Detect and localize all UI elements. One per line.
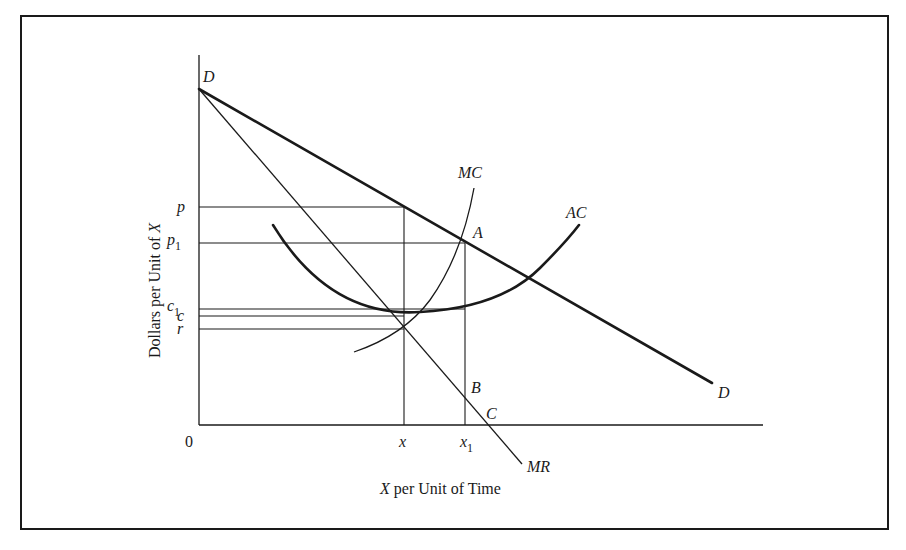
average-cost-curve [273,225,579,312]
y-axis-title-var: X [146,222,163,234]
demand-curve [199,89,712,383]
point-label-B: B [471,379,481,396]
y-level-label-p1: p1 [166,231,181,253]
y-axis-title: Dollars per Unit of X [146,222,164,358]
x-level-label-x1: x1 [459,433,473,455]
y-level-label-r: r [177,320,184,337]
y-axis-title-rest: Dollars per Unit of [146,233,164,358]
y-level-label-p: p [176,198,185,216]
x-level-label-x: x [398,433,406,450]
point-label-C: C [486,405,497,422]
marginal-revenue-curve [199,89,522,464]
curve-label-d-4: D [202,68,215,85]
origin-label: 0 [185,433,193,450]
curve-label-mr-2: MR [526,458,550,475]
curve-label-ac-1: AC [565,204,587,221]
curve-label-mc-0: MC [457,164,482,181]
guide-lines [199,207,465,425]
point-label-A: A [472,224,483,241]
x-axis-title: X per Unit of Time [379,480,501,498]
monopoly-cost-revenue-diagram: pp1c1crxx1ABCMCACMRDD 0 X per Unit of Ti… [0,0,906,550]
x-axis-title-rest: per Unit of Time [390,480,501,498]
diagram-labels: pp1c1crxx1ABCMCACMRDD [166,68,730,475]
curve-label-d-3: D [717,384,730,401]
